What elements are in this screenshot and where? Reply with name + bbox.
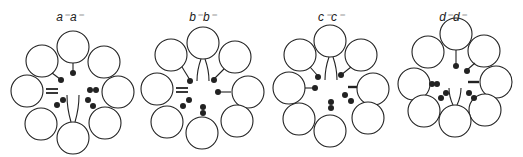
cell-circle (284, 39, 316, 71)
panel-label-d: d⁻d⁻ (439, 10, 466, 24)
dot-marker (328, 99, 334, 105)
cell-circle (314, 115, 346, 147)
dot-marker (211, 77, 217, 83)
panel-label-c: c⁻c⁻ (318, 10, 344, 24)
dot-marker (85, 97, 91, 103)
dot-marker (186, 97, 192, 103)
cell-circle (408, 95, 440, 127)
dot-marker (342, 92, 348, 98)
cell-circle (11, 75, 43, 107)
cell-circle (141, 73, 173, 105)
dot-marker (438, 95, 444, 101)
dot-marker (200, 110, 206, 116)
cell-circle (219, 41, 251, 73)
cell-circle (314, 25, 346, 57)
cell-circle (283, 103, 315, 135)
cell-circle (187, 27, 219, 59)
dot-marker (312, 85, 318, 91)
cell-circle (345, 39, 377, 71)
cell-circle (57, 31, 89, 63)
fork-line (205, 59, 209, 81)
fork-line (75, 95, 79, 122)
fork-line (197, 59, 201, 81)
dot-marker (200, 104, 206, 110)
fork-line (457, 88, 461, 105)
dot-marker (328, 105, 334, 111)
cell-circle (88, 46, 120, 78)
dot-marker (54, 102, 60, 108)
dot-marker (90, 103, 96, 109)
dot-marker (93, 87, 99, 93)
fork-line (325, 57, 329, 80)
cell-circle (439, 105, 471, 137)
dot-marker (453, 63, 459, 69)
dot-marker (215, 89, 221, 95)
dot-marker (466, 90, 472, 96)
cell-circle (25, 108, 57, 140)
dot-marker (180, 103, 186, 109)
cell-circle (102, 76, 134, 108)
panel-label-a: a⁻a⁻ (56, 10, 83, 24)
fork-line (333, 57, 337, 80)
dot-marker (471, 95, 477, 101)
dot-marker (70, 70, 76, 76)
cell-circle (468, 35, 500, 67)
cell-circle (57, 122, 89, 154)
dot-marker (338, 72, 344, 78)
dot-marker (434, 81, 440, 87)
cell-circle (155, 39, 187, 71)
cell-arrangement-figure: a⁻a⁻ b⁻b⁻ c⁻c⁻ d⁻d⁻ (0, 0, 523, 157)
dot-marker (315, 74, 321, 80)
dot-marker (87, 87, 93, 93)
cell-circle (186, 117, 218, 149)
cell-circle (412, 36, 444, 68)
cell-circle (352, 102, 384, 134)
dot-marker (443, 90, 449, 96)
fork-line (449, 88, 453, 105)
stem-line (182, 67, 190, 80)
dot-marker (464, 68, 470, 74)
cell-circle (232, 76, 264, 108)
cell-circle (357, 73, 389, 105)
dot-marker (58, 77, 64, 83)
dot-marker (187, 78, 193, 84)
cell-circle (480, 66, 512, 98)
cell-circle (273, 72, 305, 104)
cell-circle (151, 106, 183, 138)
dot-marker (348, 98, 354, 104)
cell-circle (89, 107, 121, 139)
cell-circle (26, 45, 58, 77)
fork-line (67, 95, 71, 122)
dot-marker (60, 97, 66, 103)
cell-circle (221, 105, 253, 137)
panel-label-b: b⁻b⁻ (189, 10, 216, 24)
